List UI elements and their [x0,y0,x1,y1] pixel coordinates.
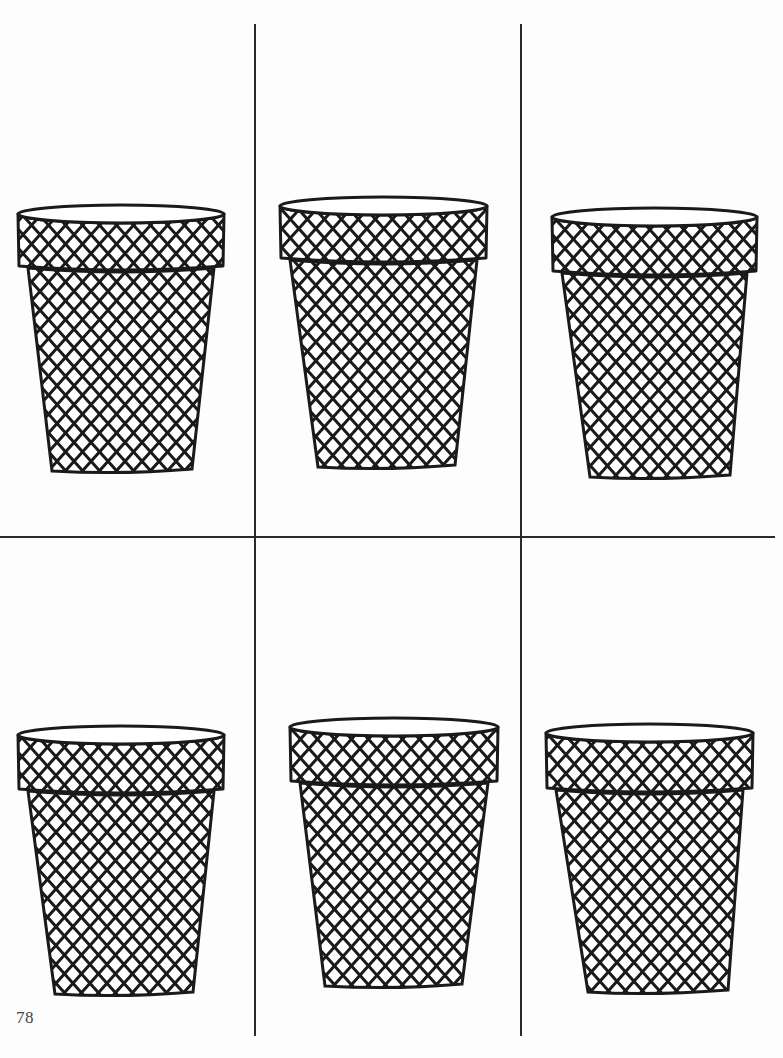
flower-pot-3 [546,202,763,484]
vertical-divider-line [254,24,256,1036]
pot-opening [280,197,487,215]
flower-pot-icon [274,191,493,474]
flower-pot-5 [284,712,504,993]
pot-opening [290,718,498,736]
flower-pot-2 [274,191,493,474]
pot-opening [18,726,224,744]
flower-pot-icon [12,199,230,478]
flower-pot-icon [12,720,230,1001]
flower-pot-4 [12,720,230,1001]
flower-pot-icon [540,718,759,999]
flower-pot-1 [12,199,230,478]
pot-opening [552,208,757,226]
vertical-divider-line [520,24,522,1036]
flower-pot-icon [284,712,504,993]
horizontal-divider-line [0,536,775,538]
pot-opening [546,724,753,742]
flower-pot-6 [540,718,759,999]
page-number: 78 [16,1008,34,1028]
worksheet-page: 78 [0,0,783,1058]
flower-pot-icon [546,202,763,484]
pot-opening [18,205,224,223]
